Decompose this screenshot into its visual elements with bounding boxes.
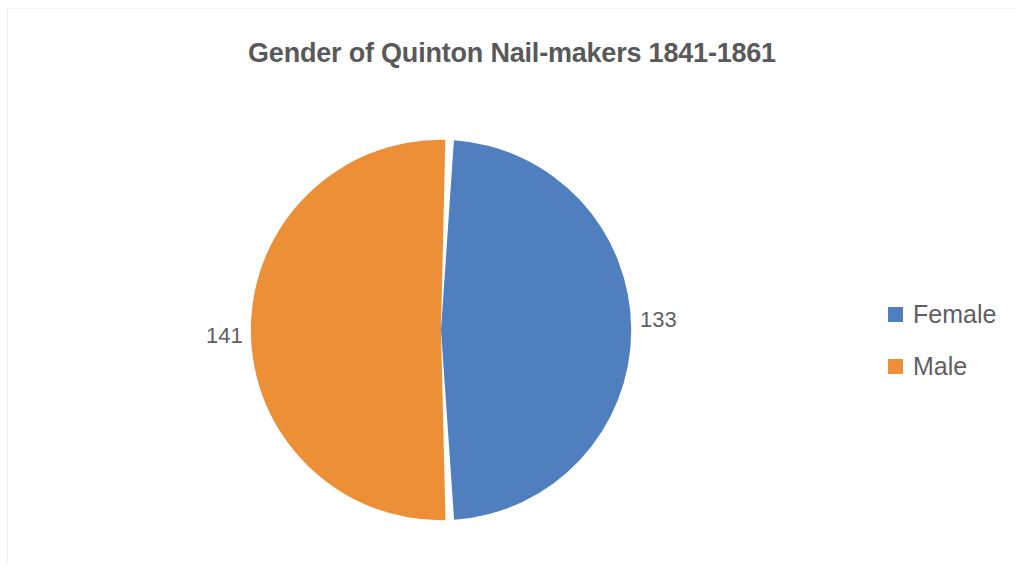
legend-label-male: Male [913, 354, 967, 379]
pie-chart-graphic [240, 128, 644, 538]
chart-canvas: Gender of Quinton Nail-makers 1841-1861 … [0, 0, 1024, 573]
legend-item-male[interactable]: Male [888, 340, 1024, 392]
data-label-female: 133 [640, 307, 677, 333]
legend-swatch-male-icon [888, 359, 903, 374]
legend-swatch-female-icon [888, 307, 903, 322]
legend-label-female: Female [913, 302, 996, 327]
chart-legend: Female Male [888, 288, 1024, 392]
data-label-male: 141 [206, 323, 243, 349]
plot-area: 133 141 [0, 0, 1024, 573]
pie-slice-male[interactable] [251, 140, 446, 520]
pie-slice-female[interactable] [441, 140, 631, 520]
legend-item-female[interactable]: Female [888, 288, 1024, 340]
